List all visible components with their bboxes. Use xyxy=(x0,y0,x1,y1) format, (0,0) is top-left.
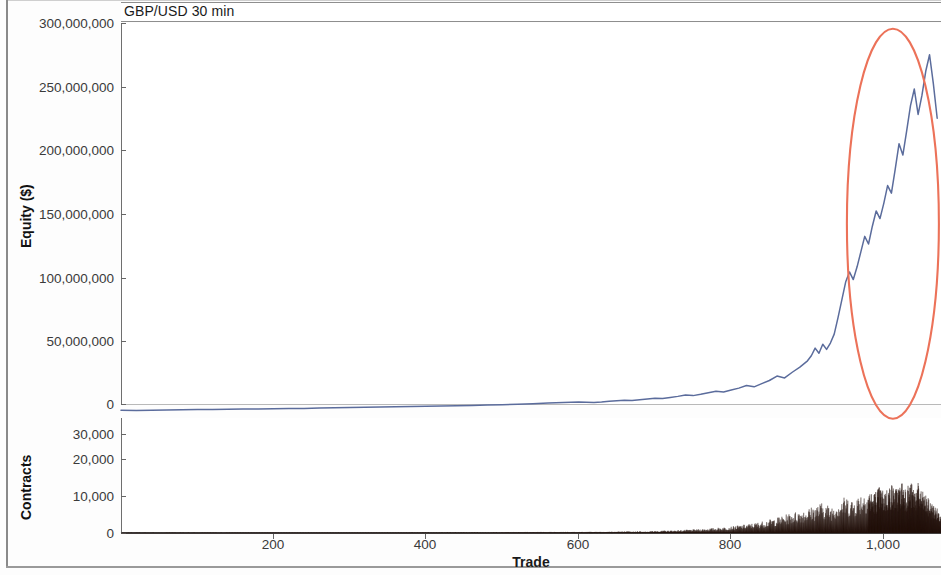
equity-curve xyxy=(121,55,937,411)
contracts-histogram xyxy=(121,483,941,533)
plot-canvas xyxy=(0,0,941,575)
highlight-ellipse-annotation xyxy=(847,29,939,419)
chart-screenshot: GBP/USD 30 min 300,000,000 250,000,000 2… xyxy=(0,0,941,575)
